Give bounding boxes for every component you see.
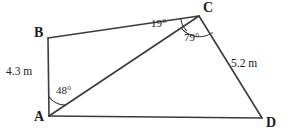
geometry-figure: B A C D 48° 19° 79° 4.3 m 5.2 m bbox=[0, 0, 288, 137]
length-label-cd: 5.2 m bbox=[231, 58, 257, 70]
angle-label-c-19: 19° bbox=[151, 18, 166, 29]
angle-arc-a-48 bbox=[49, 96, 66, 105]
length-label-ab: 4.3 m bbox=[6, 66, 32, 78]
edge-ad bbox=[49, 116, 262, 118]
vertex-label-c: C bbox=[203, 1, 213, 15]
edge-bc bbox=[48, 16, 199, 38]
angle-label-c-79: 79° bbox=[184, 32, 199, 43]
vertex-label-b: B bbox=[34, 26, 43, 40]
vertex-label-a: A bbox=[34, 110, 44, 124]
edge-ab bbox=[48, 38, 49, 116]
angle-label-a-48: 48° bbox=[56, 85, 71, 96]
diagonal-ac bbox=[49, 16, 199, 116]
vertex-label-d: D bbox=[266, 116, 276, 130]
